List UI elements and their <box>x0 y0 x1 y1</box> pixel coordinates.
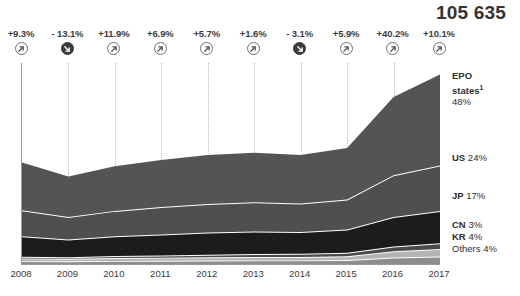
arrow-up-right-icon <box>15 42 28 55</box>
plot-area <box>21 63 440 265</box>
legend-label-us: US 24% <box>452 152 487 164</box>
arrow-up-right-icon <box>107 42 120 55</box>
arrow-up-right-icon <box>200 42 213 55</box>
arrow-up-right-icon <box>433 42 446 55</box>
stacked-areas <box>22 63 440 264</box>
arrow-up-right-icon <box>247 42 260 55</box>
growth-rate-value: +10.1% <box>411 28 467 39</box>
legend-label-kr: KR 4% <box>452 231 482 243</box>
growth-rate-row: +9.3%- 13.1%+11.9%+6.9%+5.7%+1.6%- 3.1%+… <box>0 28 520 58</box>
x-axis-label-2017: 2017 <box>411 268 467 279</box>
arrow-up-right-icon <box>386 42 399 55</box>
arrow-up-right-icon <box>340 42 353 55</box>
total-value: 105 635 <box>436 2 506 24</box>
legend-label-jp: JP 17% <box>452 190 485 202</box>
arrow-down-right-icon <box>61 42 74 55</box>
legend-label-cn: CN 3% <box>452 219 482 231</box>
growth-rate-2017: +10.1% <box>411 28 467 55</box>
plot-inner <box>22 63 440 264</box>
chart-figure: 105 635 +9.3%- 13.1%+11.9%+6.9%+5.7%+1.6… <box>0 0 520 296</box>
legend-label-others: Others 4% <box>452 243 497 255</box>
x-axis: 2008200920102011201220132014201520162017 <box>0 268 520 288</box>
arrow-up-right-icon <box>154 42 167 55</box>
arrow-down-right-icon <box>293 42 306 55</box>
legend-label-epo-states: EPO states1 48% <box>452 70 483 108</box>
